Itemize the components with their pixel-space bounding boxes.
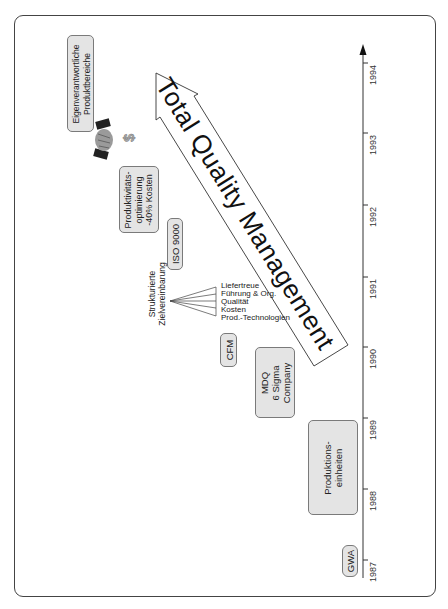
produktionseinheiten-line-1: Produktions-: [322, 441, 333, 494]
milestone-cfm: CFM: [220, 333, 237, 367]
milestone-mdq: MDQ 6 Sigma Company: [255, 347, 295, 418]
item-prod-technologien: Prod.-Technologien: [221, 313, 290, 323]
handshake-icon: [93, 118, 113, 159]
eigenverantwortlich-line-1: Eigenverantwortliche: [70, 44, 81, 123]
year-1992: 1992: [368, 207, 378, 227]
eigenverantwortlich-line-2: Produktbereiche: [81, 44, 92, 123]
year-1991: 1991: [368, 279, 378, 299]
year-1993: 1993: [368, 135, 378, 155]
milestone-produktionseinheiten: Produktions- einheiten: [308, 420, 358, 515]
zielvereinbarung-fan: [170, 287, 216, 316]
iso-label: ISO 9000: [170, 224, 181, 264]
year-1988: 1988: [368, 491, 378, 511]
year-1989: 1989: [368, 420, 378, 440]
produktivitaet-line-1: Produktivitäts-: [123, 171, 134, 228]
produktionseinheiten-line-2: einheiten: [333, 441, 344, 494]
milestone-produktivitaet: Produktivitäts- optimierung -40% Kosten: [119, 166, 159, 233]
svg-text:$: $: [120, 133, 137, 142]
mdq-line-3: Company: [281, 362, 292, 403]
zielvereinbarung-line-2: Zielvereinbarung: [157, 254, 167, 334]
milestone-eigenverantwortlich: Eigenverantwortliche Produktbereiche: [67, 35, 94, 132]
mdq-line-1: MDQ: [259, 362, 270, 403]
produktivitaet-line-2: optimierung: [134, 171, 145, 228]
zielvereinbarung-line-1: Strukturierte: [147, 254, 157, 334]
dollar-icon: $: [120, 133, 137, 142]
year-1990: 1990: [368, 349, 378, 369]
gwa-label: GWA: [345, 550, 356, 572]
mdq-line-2: 6 Sigma: [270, 362, 281, 403]
year-1994: 1994: [368, 65, 378, 85]
timeline-axis: [360, 44, 369, 578]
cfm-label: CFM: [223, 340, 234, 361]
zielvereinbarung-label: Strukturierte Zielvereinbarung: [147, 254, 169, 334]
year-1987: 1987: [368, 562, 378, 582]
milestone-iso-9000: ISO 9000: [167, 218, 183, 270]
produktivitaet-line-3: -40% Kosten: [144, 171, 155, 228]
milestone-gwa: GWA: [342, 545, 358, 577]
